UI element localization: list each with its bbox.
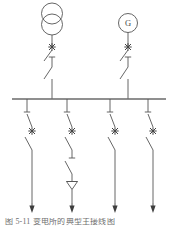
feeder-4-circuit-breaker-icon[interactable] bbox=[149, 127, 156, 135]
figure-caption-strip: 图 5-11 变电所的典型主接线图 bbox=[0, 218, 173, 227]
single-line-diagram: G bbox=[0, 0, 173, 227]
surge-arrester-icon[interactable] bbox=[67, 182, 78, 190]
figure-caption: 图 5-11 变电所的典型主接线图 bbox=[0, 218, 173, 226]
generator-incomer-branch[interactable]: G bbox=[119, 14, 138, 100]
feeder-3-disconnector-upper-icon[interactable] bbox=[110, 114, 115, 127]
figure-root: G bbox=[0, 0, 173, 227]
generator-label: G bbox=[125, 18, 131, 28]
feeder-1-branch[interactable] bbox=[24, 99, 36, 213]
feeder-3-circuit-breaker-icon[interactable] bbox=[111, 127, 118, 135]
feeder-2-disconnector-lower-icon[interactable] bbox=[65, 161, 72, 174]
transformer-disconnector-upper-icon[interactable] bbox=[44, 50, 55, 67]
feeder-2-branch[interactable] bbox=[64, 99, 78, 213]
transformer-disconnector-lower-icon[interactable] bbox=[44, 67, 52, 99]
feeder-1-disconnector-lower-icon[interactable] bbox=[25, 137, 32, 150]
feeder-2-load-arrow-icon bbox=[69, 203, 74, 213]
feeder-3-load-arrow-icon bbox=[112, 203, 117, 213]
two-winding-transformer-icon bbox=[42, 3, 63, 35]
feeder-1-circuit-breaker-icon[interactable] bbox=[28, 127, 35, 135]
feeder-2-disconnector-middle-icon[interactable] bbox=[65, 137, 75, 158]
feeder-3-branch[interactable] bbox=[107, 99, 119, 213]
feeder-4-disconnector-lower-icon[interactable] bbox=[146, 137, 153, 150]
generator-circuit-breaker-icon[interactable] bbox=[124, 43, 131, 51]
feeder-4-load-arrow-icon bbox=[150, 203, 155, 213]
feeder-2-disconnector-upper-icon[interactable] bbox=[67, 114, 72, 127]
transformer-circuit-breaker-icon[interactable] bbox=[48, 43, 55, 51]
feeder-4-branch[interactable] bbox=[145, 99, 157, 213]
feeder-3-disconnector-lower-icon[interactable] bbox=[108, 137, 115, 150]
generator-icon: G bbox=[119, 14, 138, 33]
feeder-2-circuit-breaker-icon[interactable] bbox=[68, 127, 75, 135]
generator-disconnector-lower-icon[interactable] bbox=[120, 67, 128, 99]
feeder-1-load-arrow-icon bbox=[29, 203, 34, 213]
transformer-incomer-branch[interactable] bbox=[42, 3, 63, 99]
generator-disconnector-upper-icon[interactable] bbox=[120, 50, 131, 67]
feeder-1-disconnector-upper-icon[interactable] bbox=[27, 114, 32, 127]
feeder-4-disconnector-upper-icon[interactable] bbox=[148, 114, 153, 127]
